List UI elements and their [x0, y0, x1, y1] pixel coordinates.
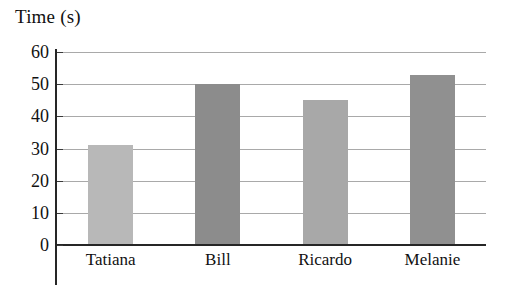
y-tick-label-30: 30: [7, 140, 49, 158]
bar-bill[interactable]: [195, 84, 240, 245]
bar-ricardo[interactable]: [303, 100, 348, 245]
y-tick-mark-40: [57, 116, 63, 117]
bar-chart-figure: Time (s) 0102030405060 TatianaBillRicard…: [0, 0, 510, 295]
y-tick-label-60: 60: [7, 43, 49, 61]
bars-layer: [57, 52, 486, 245]
y-tick-mark-10: [57, 213, 63, 214]
y-tick-mark-60: [57, 52, 63, 53]
x-axis-label-melanie: Melanie: [372, 250, 492, 270]
x-axis-line: [55, 244, 486, 246]
x-axis-label-ricardo: Ricardo: [265, 250, 385, 270]
y-tick-mark-0: [57, 245, 63, 246]
y-tick-mark-20: [57, 181, 63, 182]
bar-tatiana[interactable]: [88, 145, 133, 245]
y-tick-label-0: 0: [7, 236, 49, 254]
y-axis-tick-labels: 0102030405060: [3, 0, 49, 295]
y-tick-label-20: 20: [7, 172, 49, 190]
x-axis-label-tatiana: Tatiana: [51, 250, 171, 270]
y-tick-label-40: 40: [7, 107, 49, 125]
y-tick-mark-50: [57, 84, 63, 85]
x-axis-label-bill: Bill: [158, 250, 278, 270]
y-tick-label-10: 10: [7, 204, 49, 222]
y-tick-label-50: 50: [7, 75, 49, 93]
bar-melanie[interactable]: [410, 75, 455, 245]
y-tick-mark-30: [57, 149, 63, 150]
